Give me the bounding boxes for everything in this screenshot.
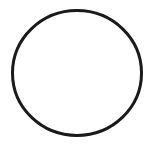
drawing-canvas bbox=[0, 0, 155, 144]
circle-outline bbox=[13, 11, 142, 136]
circle-outline-graphic bbox=[0, 0, 155, 144]
